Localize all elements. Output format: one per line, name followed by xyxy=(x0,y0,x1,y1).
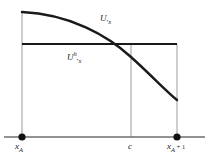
curve-label-u-x: U,x xyxy=(100,14,111,25)
axis-label-xa-subscript: A xyxy=(19,146,23,153)
step-label-uh-x: Uh,x xyxy=(67,51,81,64)
curve-label-subscript: x xyxy=(108,18,111,25)
node-marker-xa xyxy=(18,133,25,140)
figure-container: U,x Uh,x xA c xA + 1 xyxy=(0,0,209,162)
step-label-subscript: x xyxy=(79,57,82,64)
axis-label-xa: xA xyxy=(15,142,23,153)
node-marker-xa1 xyxy=(173,133,180,140)
axis-label-c: c xyxy=(128,142,132,151)
axis-label-xa1: xA + 1 xyxy=(167,142,185,153)
axis-label-xa1-suffix: + 1 xyxy=(175,143,185,150)
